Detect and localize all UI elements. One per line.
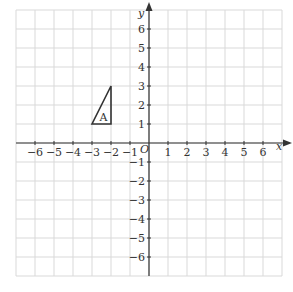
x-tick-label: −3 bbox=[84, 146, 100, 159]
y-tick-label: 5 bbox=[138, 42, 145, 55]
y-tick-label: 2 bbox=[138, 99, 145, 112]
x-tick-label: −5 bbox=[46, 146, 62, 159]
y-tick-label: −4 bbox=[129, 213, 145, 226]
y-tick-label: −6 bbox=[129, 251, 145, 264]
x-tick-label: 4 bbox=[222, 146, 229, 159]
x-tick-label: 1 bbox=[165, 146, 172, 159]
y-axis-arrow-icon bbox=[146, 2, 153, 11]
x-tick-label: 3 bbox=[203, 146, 210, 159]
x-tick-label: 5 bbox=[241, 146, 248, 159]
y-tick-label: 3 bbox=[138, 80, 145, 93]
x-tick-label: −4 bbox=[65, 146, 81, 159]
shape-label-A: A bbox=[98, 111, 108, 124]
coordinate-grid: −6−5−4−3−2−1123456−6−5−4−3−2−1123456 A x… bbox=[0, 0, 293, 292]
y-tick-label: −5 bbox=[129, 232, 145, 245]
x-tick-label: −6 bbox=[27, 146, 43, 159]
axes bbox=[16, 2, 292, 276]
x-tick-label: 2 bbox=[184, 146, 191, 159]
y-tick-label: 4 bbox=[138, 61, 145, 74]
x-tick-label: −2 bbox=[103, 146, 119, 159]
y-axis-label: y bbox=[137, 7, 145, 20]
y-tick-label: 6 bbox=[138, 23, 145, 36]
y-tick-label: −3 bbox=[129, 194, 145, 207]
y-tick-label: −2 bbox=[129, 175, 145, 188]
y-tick-label: 1 bbox=[138, 118, 145, 131]
x-tick-label: 6 bbox=[260, 146, 267, 159]
y-tick-label: −1 bbox=[129, 156, 145, 169]
origin-label: O bbox=[140, 143, 149, 156]
x-axis-arrow-icon bbox=[283, 140, 292, 147]
x-axis-label: x bbox=[276, 140, 283, 153]
